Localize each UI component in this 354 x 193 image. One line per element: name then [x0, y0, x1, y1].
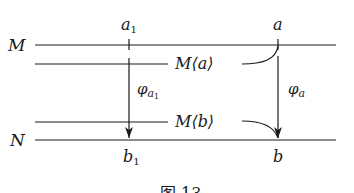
label-b1: b1: [123, 147, 140, 167]
label-M-a: M⟨a⟩: [174, 54, 213, 73]
label-phi-a: φa: [288, 80, 305, 100]
label-b: b: [273, 147, 283, 166]
curve-Ma-to-a: [242, 46, 278, 64]
curve-Mb-to-b: [242, 121, 278, 138]
figure-caption: 图 13: [160, 184, 201, 193]
mapping-diagram: M N a1 a b1 b φa1 φa M⟨a⟩ M⟨b⟩ 图 13: [0, 0, 354, 193]
label-a: a: [273, 15, 283, 34]
label-M-b: M⟨b⟩: [174, 112, 214, 131]
label-a1: a1: [121, 15, 137, 35]
label-phi-a1: φa1: [137, 80, 159, 101]
label-N: N: [9, 130, 26, 150]
diagram-canvas: M N a1 a b1 b φa1 φa M⟨a⟩ M⟨b⟩ 图 13: [0, 0, 354, 193]
label-M: M: [7, 35, 26, 55]
